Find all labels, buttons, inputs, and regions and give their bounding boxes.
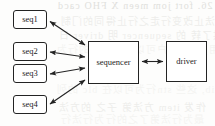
node-sequencer[interactable]: sequencer bbox=[88, 41, 139, 84]
edge-seq4-sequencer bbox=[50, 80, 85, 104]
node-seq1-label: seq1 bbox=[22, 15, 38, 24]
node-seq3-label: seq3 bbox=[22, 69, 38, 78]
edge-seq2-sequencer bbox=[50, 52, 85, 57]
edge-seq3-sequencer bbox=[50, 68, 85, 74]
node-sequencer-label: sequencer bbox=[97, 58, 131, 67]
node-seq2[interactable]: seq2 bbox=[13, 42, 47, 61]
node-seq2-label: seq2 bbox=[22, 47, 38, 56]
node-seq4-label: seq4 bbox=[22, 100, 38, 109]
node-seq1[interactable]: seq1 bbox=[13, 10, 47, 29]
node-seq3[interactable]: seq3 bbox=[13, 64, 47, 83]
node-driver[interactable]: driver bbox=[166, 41, 207, 82]
diagram-canvas: on any 26. fort jom meen X FHO cacd 果用户提… bbox=[0, 0, 215, 126]
edge-seq1-sequencer bbox=[50, 22, 85, 46]
node-driver-label: driver bbox=[176, 57, 196, 66]
node-seq4[interactable]: seq4 bbox=[13, 95, 47, 114]
